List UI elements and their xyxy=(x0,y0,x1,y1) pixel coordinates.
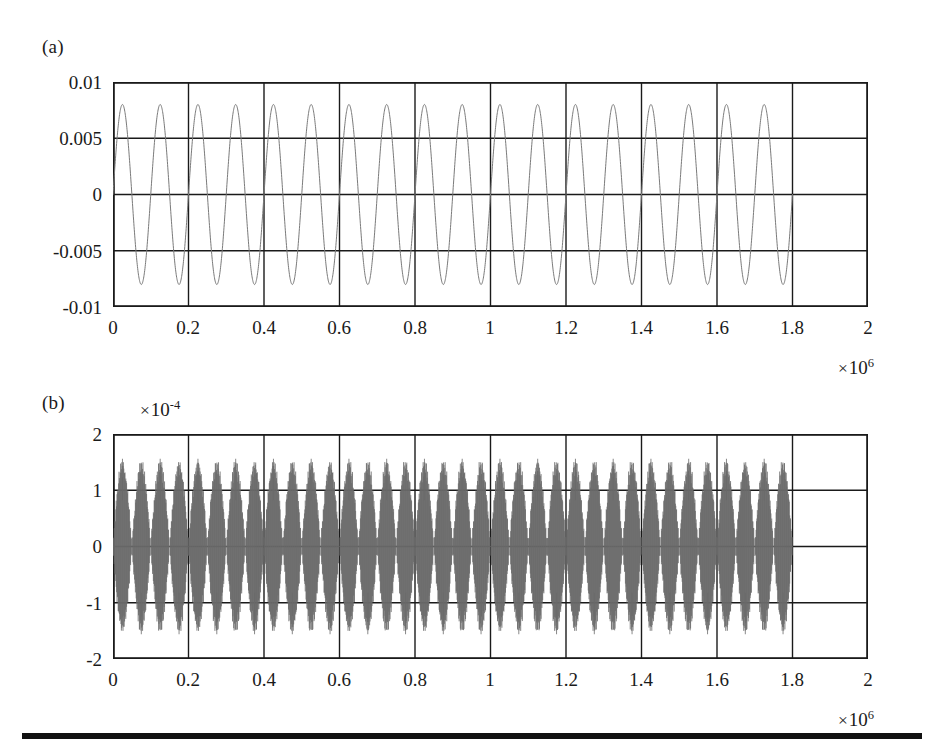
panel-a-chart-svg xyxy=(113,82,868,307)
panel-b-y-multiplier-base: 10 xyxy=(151,399,170,420)
panel-b-ytick-3: -1 xyxy=(40,594,102,613)
panel-a-ytick-3: -0.005 xyxy=(2,242,102,261)
panel-b-x-multiplier-exponent: 6 xyxy=(868,708,874,722)
panel-a-xtick-9: 1.8 xyxy=(762,318,822,337)
panel-b-xtick-4: 0.8 xyxy=(385,670,445,689)
panel-a-xtick-0: 0 xyxy=(83,318,143,337)
panel-a-label: (a) xyxy=(42,36,64,58)
panel-a-xtick-8: 1.6 xyxy=(687,318,747,337)
panel-a-plot-area xyxy=(113,82,868,307)
panel-a-ytick-4: -0.01 xyxy=(2,298,102,317)
panel-b-ytick-2: 0 xyxy=(40,537,102,556)
panel-b-ytick-1: 1 xyxy=(40,481,102,500)
panel-b-plot-area xyxy=(113,434,868,659)
figure-container: (a) 0.01 0.005 0 -0.005 -0.01 0 0.2 0.4 … xyxy=(0,0,944,750)
panel-a-xtick-1: 0.2 xyxy=(158,318,218,337)
panel-b-xtick-10: 2 xyxy=(838,670,898,689)
panel-a-ytick-0: 0.01 xyxy=(2,73,102,92)
panel-b-x-multiplier: ×106 xyxy=(838,710,874,729)
panel-a-xtick-2: 0.4 xyxy=(234,318,294,337)
panel-a-x-multiplier-exponent: 6 xyxy=(868,356,874,370)
panel-a-ytick-2: 0 xyxy=(2,185,102,204)
footer-rule xyxy=(22,733,922,739)
panel-b-xtick-7: 1.4 xyxy=(611,670,671,689)
panel-a-xtick-3: 0.6 xyxy=(309,318,369,337)
panel-b-ytick-4: -2 xyxy=(40,650,102,669)
panel-b-xtick-9: 1.8 xyxy=(762,670,822,689)
panel-a-xtick-10: 2 xyxy=(838,318,898,337)
panel-b-y-multiplier-times: × xyxy=(140,400,151,420)
panel-b-xtick-2: 0.4 xyxy=(234,670,294,689)
panel-b-chart-svg xyxy=(113,434,868,659)
panel-a-x-multiplier-base: 10 xyxy=(849,357,868,378)
panel-b-xtick-8: 1.6 xyxy=(687,670,747,689)
panel-b-y-multiplier: ×10-4 xyxy=(140,400,180,419)
panel-a-x-multiplier-times: × xyxy=(838,358,849,378)
panel-a-xtick-4: 0.8 xyxy=(385,318,445,337)
panel-b-xtick-3: 0.6 xyxy=(309,670,369,689)
panel-a-xtick-6: 1.2 xyxy=(536,318,596,337)
panel-b-y-multiplier-exponent: -4 xyxy=(170,398,180,412)
panel-b-ytick-0: 2 xyxy=(40,425,102,444)
panel-b-xtick-6: 1.2 xyxy=(536,670,596,689)
panel-a-xtick-7: 1.4 xyxy=(611,318,671,337)
panel-a-x-multiplier: ×106 xyxy=(838,358,874,377)
panel-a-ytick-1: 0.005 xyxy=(2,129,102,148)
panel-b-label: (b) xyxy=(42,392,65,414)
panel-b-x-multiplier-times: × xyxy=(838,710,849,730)
panel-b-xtick-5: 1 xyxy=(460,670,520,689)
panel-b-xtick-0: 0 xyxy=(83,670,143,689)
panel-a-xtick-5: 1 xyxy=(460,318,520,337)
panel-b-x-multiplier-base: 10 xyxy=(849,709,868,730)
panel-b-xtick-1: 0.2 xyxy=(158,670,218,689)
